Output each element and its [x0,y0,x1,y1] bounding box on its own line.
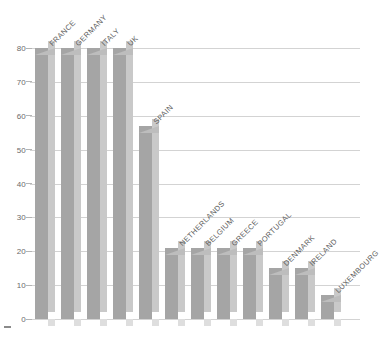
y-tick-70 [26,81,32,82]
bar-top-bevel [217,248,237,255]
bar-top-bevel [295,268,315,275]
bar-base-shadow [256,319,263,326]
bar-top-bevel [35,48,55,55]
category-label-spain: SPAIN [152,103,175,126]
y-axis-label-20: 20 [0,247,26,256]
bar-side-face [152,119,159,312]
bar-top-bevel [113,48,133,55]
y-tick-10 [26,285,32,286]
bar-top-bevel [269,268,289,275]
y-tick-20 [26,251,32,252]
bar-side-face [48,41,55,312]
bar-base-shadow [334,319,341,326]
bar-front-face [269,268,282,319]
bar-front-face [295,268,308,319]
y-axis-label-50: 50 [0,145,26,154]
category-label-luxembourg: LUXEMBOURG [334,248,381,295]
bar-base-shadow [308,319,315,326]
bar-base-shadow [178,319,185,326]
y-axis-label-10: 10 [0,281,26,290]
y-axis-label-40: 40 [0,179,26,188]
y-axis-label-70: 70 [0,77,26,86]
bar-base-shadow [126,319,133,326]
corner-mark [4,326,11,328]
bar-front-face [87,48,100,319]
bar-top-bevel [165,248,185,255]
bar-front-face [217,248,230,319]
bar-top-bevel [191,248,211,255]
bar-side-face [126,41,133,312]
y-axis-label-0: 0 [0,315,26,324]
y-tick-40 [26,183,32,184]
bar-base-shadow [48,319,55,326]
bar-front-face [243,248,256,319]
bar-top-bevel [321,295,341,302]
y-axis-label-60: 60 [0,111,26,120]
y-tick-50 [26,149,32,150]
bar-top-bevel [243,248,263,255]
bar-side-face [74,41,81,312]
category-label-netherlands: NETHERLANDS [178,199,227,248]
bar-front-face [139,126,152,319]
bar-base-shadow [282,319,289,326]
bar-front-face [113,48,126,319]
bar-base-shadow [100,319,107,326]
bar-front-face [35,48,48,319]
bar-base-shadow [152,319,159,326]
bar-front-face [61,48,74,319]
bar-top-bevel [139,126,159,133]
y-tick-80 [26,48,32,49]
bar-top-bevel [87,48,107,55]
bar-base-shadow [74,319,81,326]
category-label-portugal: PORTUGAL [256,210,294,248]
bar-top-bevel [61,48,81,55]
bar-front-face [165,248,178,319]
y-tick-30 [26,217,32,218]
bar-base-shadow [204,319,211,326]
bar-base-shadow [230,319,237,326]
y-axis-label-80: 80 [0,44,26,53]
bar-front-face [191,248,204,319]
y-axis-label-30: 30 [0,213,26,222]
bar-side-face [100,41,107,312]
category-label-italy: ITALY [100,26,122,48]
y-tick-0 [26,319,32,320]
y-tick-60 [26,115,32,116]
